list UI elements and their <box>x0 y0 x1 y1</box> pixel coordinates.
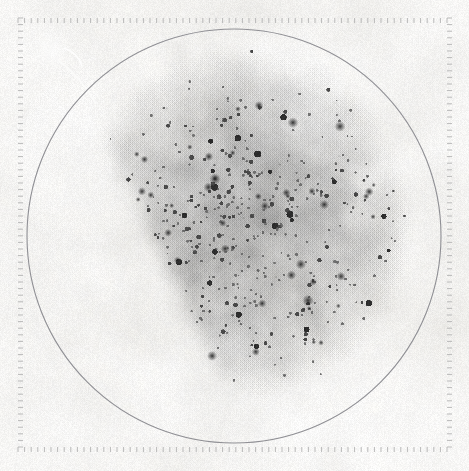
plate-viewer <box>0 0 469 471</box>
plate-image-canvas <box>0 0 469 471</box>
